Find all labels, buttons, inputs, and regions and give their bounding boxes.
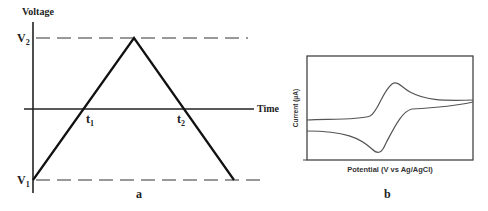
v1-label: V1 [17,173,30,189]
voltage-axis-label: Voltage [22,6,54,17]
potential-axis-label: Potential (V vs Ag/AgCl) [347,165,433,174]
current-axis-label: Current (μA) [292,89,300,127]
panel-b-label: b [384,187,391,201]
panel-a-label: a [136,187,142,201]
plot-frame [307,56,473,160]
t1-label: t1 [86,112,94,128]
time-axis-label: Time [257,103,280,114]
reverse-scan-curve [307,102,473,152]
t2-label: t2 [177,112,185,128]
forward-scan-curve [307,83,473,120]
figure: Voltage Time V2 V1 t1 t2 a Current (μA) … [0,0,488,211]
panel-b: Current (μA) Potential (V vs Ag/AgCl) b [292,56,473,201]
panel-a: Voltage Time V2 V1 t1 t2 a [17,6,280,201]
v2-label: V2 [17,31,30,47]
